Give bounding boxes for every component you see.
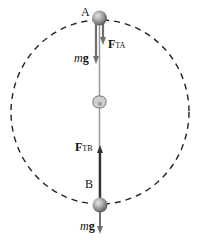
weight-arrow-b <box>97 210 103 234</box>
label-f-tb: FTB <box>75 141 93 153</box>
hand-icon <box>93 96 106 108</box>
ball-a <box>92 11 107 26</box>
ball-b <box>93 198 108 213</box>
label-mg-a: mg <box>74 52 89 64</box>
label-b: B <box>85 178 93 190</box>
vertical-circle-diagram <box>0 0 199 240</box>
label-f-ta: FTA <box>108 38 125 50</box>
label-a: A <box>81 6 90 18</box>
label-mg-b: mg <box>80 220 95 232</box>
tension-arrow-b <box>97 145 103 200</box>
weight-arrow-a <box>93 20 99 64</box>
